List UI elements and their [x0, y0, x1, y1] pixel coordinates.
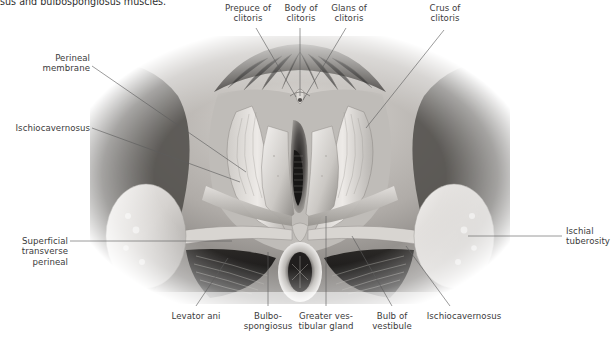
label-bulb-of-vestibule: Bulb of vestibule [364, 311, 420, 332]
label-ischial-tuberosity: Ischial tuberosity [566, 226, 615, 247]
label-ischiocavernosus-right: Ischiocavernosus [418, 311, 510, 321]
label-superficial-transverse-perineal: Superficial transverse perineal [0, 236, 68, 267]
label-ischiocavernosus-left: Ischiocavernosus [0, 123, 90, 133]
label-perineal-membrane: Perineal membrane [0, 53, 90, 74]
label-greater-vestibular-gland: Greater ves- tibular gland [290, 311, 362, 332]
label-glans-of-clitoris: Glans of clitoris [320, 3, 378, 24]
label-levator-ani: Levator ani [164, 311, 228, 321]
label-crus-of-clitoris: Crus of clitoris [416, 3, 474, 24]
